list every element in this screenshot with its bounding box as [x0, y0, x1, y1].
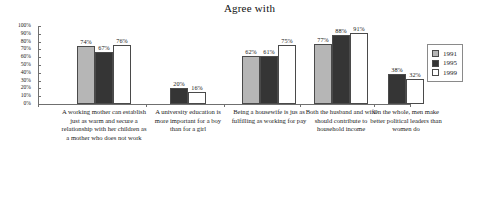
legend-label: 1995 [443, 59, 457, 67]
bar-value-label: 75% [281, 37, 292, 44]
bar-1995: 61% [260, 56, 278, 104]
x-axis-group-tick [224, 104, 225, 107]
y-axis-tick-mark [38, 81, 41, 82]
x-axis-group-tick [38, 104, 39, 107]
bar-group: 20%16% [170, 26, 206, 104]
y-axis-tick-mark [38, 57, 41, 58]
category-label: On the whole, men make better political … [366, 108, 446, 134]
x-axis-group-tick [374, 104, 375, 107]
agree-with-bar-chart: Agree with 100%90%80%70%60%50%40%30%20%1… [0, 0, 499, 215]
bar-1999: 75% [278, 45, 296, 104]
bar-group: 77%88%91% [314, 26, 368, 104]
bar-value-label: 61% [263, 48, 274, 55]
y-axis-tick-label: 100% [18, 23, 31, 29]
chart-legend: 199119951999 [427, 44, 463, 82]
x-axis-group-tick [410, 104, 411, 107]
y-axis-tick-mark [38, 73, 41, 74]
y-axis-tick-mark [38, 65, 41, 66]
bar-value-label: 16% [191, 84, 202, 91]
legend-swatch-1991 [432, 50, 439, 57]
y-axis-tick-label: 30% [21, 78, 31, 84]
bar-1999: 32% [406, 79, 424, 104]
y-axis-tick-mark [38, 34, 41, 35]
bar-1991: 62% [242, 56, 260, 104]
y-axis-tick-label: 40% [21, 70, 31, 76]
category-label: Being a housewife is jus as fulfilling a… [231, 108, 307, 125]
bar-group: 38%32% [388, 26, 424, 104]
y-axis-tick-label: 0% [24, 101, 31, 107]
legend-label: 1991 [443, 50, 457, 58]
legend-swatch-1995 [432, 60, 439, 67]
bar-1995: 38% [388, 74, 406, 104]
bar-value-label: 74% [80, 38, 91, 45]
bar-value-label: 32% [409, 71, 420, 78]
y-axis-tick-label: 80% [21, 39, 31, 45]
bar-1999: 76% [113, 45, 131, 104]
bar-1995: 67% [95, 52, 113, 104]
category-label: A working mother can establish just as w… [61, 108, 147, 142]
bar-1991: 77% [314, 44, 332, 104]
legend-swatch-1999 [432, 69, 439, 76]
x-axis-group-tick [146, 104, 147, 107]
bar-1999: 91% [350, 33, 368, 104]
bar-group: 62%61%75% [242, 26, 296, 104]
y-axis-tick-label: 60% [21, 54, 31, 60]
bar-value-label: 62% [245, 48, 256, 55]
bar-1995: 88% [332, 35, 350, 104]
bar-value-label: 67% [98, 44, 109, 51]
bar-1995: 20% [170, 88, 188, 104]
y-axis-tick-label: 50% [21, 62, 31, 68]
y-axis-tick-labels: 100%90%80%70%60%50%40%30%20%10%0% [0, 26, 36, 104]
category-label: A university education is more important… [152, 108, 224, 134]
bar-1999: 16% [188, 92, 206, 104]
legend-item-1991: 1991 [432, 50, 457, 58]
y-axis-tick-label: 10% [21, 93, 31, 99]
y-axis-tick-label: 20% [21, 86, 31, 92]
x-axis-group-tick [300, 104, 301, 107]
bar-group: 74%67%76% [77, 26, 131, 104]
bar-value-label: 38% [391, 66, 402, 73]
y-axis-tick-mark [38, 26, 41, 27]
plot-area: 74%67%76%20%16%62%61%75%77%88%91%38%32% [38, 26, 410, 104]
bar-1991: 74% [77, 46, 95, 104]
bar-value-label: 88% [335, 27, 346, 34]
y-axis-tick-label: 90% [21, 31, 31, 37]
bar-value-label: 20% [173, 80, 184, 87]
y-axis-tick-mark [38, 49, 41, 50]
bar-value-label: 76% [116, 37, 127, 44]
y-axis-tick-mark [38, 88, 41, 89]
legend-label: 1999 [443, 69, 457, 77]
y-axis-tick-label: 70% [21, 47, 31, 53]
bar-value-label: 91% [353, 25, 364, 32]
legend-item-1999: 1999 [432, 69, 457, 77]
legend-item-1995: 1995 [432, 59, 457, 67]
bar-value-label: 77% [317, 36, 328, 43]
chart-title: Agree with [0, 2, 499, 14]
category-axis-labels: A working mother can establish just as w… [38, 108, 410, 208]
y-axis-tick-mark [38, 96, 41, 97]
y-axis-tick-mark [38, 42, 41, 43]
